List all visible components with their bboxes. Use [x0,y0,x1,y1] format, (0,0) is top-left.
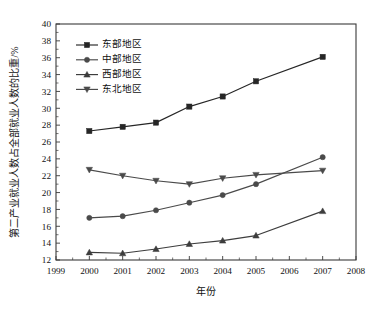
data-point [120,124,125,129]
legend-label: 中部地区 [102,53,142,64]
y-tick-label: 40 [42,19,52,29]
y-tick-label: 18 [42,205,52,215]
y-axis-ticks: 121416182022242628303234363840 [42,19,60,265]
legend-item[interactable]: 西部地区 [76,68,142,79]
plot-frame [56,24,356,260]
y-tick-label: 36 [42,53,52,63]
y-tick-label: 30 [42,104,52,114]
line-chart: 121416182022242628303234363840 199920002… [0,0,381,312]
y-tick-label: 26 [42,137,52,147]
data-point [87,215,92,220]
data-point [187,200,192,205]
y-tick-label: 28 [42,120,52,130]
x-axis-title: 年份 [196,285,216,297]
legend-label: 东部地区 [102,38,142,49]
y-tick-label: 38 [42,36,52,46]
data-point [187,104,192,109]
data-point [319,208,325,214]
x-tick-label: 2002 [147,266,166,276]
x-tick-label: 2007 [313,266,332,276]
data-point [253,79,258,84]
data-series [87,155,326,221]
x-tick-label: 2001 [113,266,132,276]
y-tick-label: 24 [42,154,52,164]
y-tick-label: 22 [42,171,52,181]
legend-item[interactable]: 中部地区 [76,53,142,64]
y-tick-label: 12 [42,255,52,265]
y-tick-label: 14 [42,238,52,248]
x-tick-label: 2006 [280,266,299,276]
y-tick-label: 20 [42,188,52,198]
data-point [253,182,258,187]
series-line [89,157,322,218]
data-point [320,155,325,160]
data-point [87,128,92,133]
data-point [153,120,158,125]
x-tick-label: 2008 [347,266,366,276]
data-point [153,208,158,213]
x-tick-label: 2003 [180,266,199,276]
legend-item[interactable]: 东部地区 [76,38,142,49]
y-axis-title: 第二产业就业人数占全部就业人数的比重/% [8,46,20,237]
data-series [87,54,326,133]
x-tick-label: 2000 [80,266,99,276]
legend-item[interactable]: 东北地区 [76,83,142,94]
x-tick-label: 1999 [47,266,66,276]
data-point [120,214,125,219]
chart-container: 121416182022242628303234363840 199920002… [0,0,381,312]
legend-marker [84,57,89,62]
y-tick-label: 32 [42,87,52,97]
data-point [186,182,192,188]
chart-legend: 东部地区中部地区西部地区东北地区 [76,38,142,93]
y-tick-label: 34 [42,70,52,80]
legend-marker [84,42,89,47]
data-point [320,54,325,59]
series-line [89,170,322,184]
data-point [220,94,225,99]
legend-label: 西部地区 [102,68,142,79]
data-point [220,193,225,198]
x-tick-label: 2005 [247,266,266,276]
x-tick-label: 2004 [213,266,232,276]
y-tick-label: 16 [42,222,52,232]
x-axis-ticks: 1999200020012002200320042005200620072008 [47,256,366,276]
legend-label: 东北地区 [102,83,142,94]
